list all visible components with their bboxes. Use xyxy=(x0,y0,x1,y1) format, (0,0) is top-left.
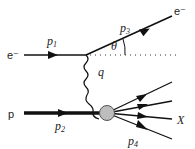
hadron-arrow xyxy=(136,94,147,102)
hadron-arrow xyxy=(137,112,148,119)
hadron-arrow xyxy=(136,120,148,130)
photon-wavy-line xyxy=(84,55,99,119)
outgoing-electron-arrow xyxy=(139,29,151,37)
p2-label: p2 xyxy=(54,119,65,134)
p1-label: p1 xyxy=(46,34,57,49)
hadron-arrow xyxy=(137,104,148,110)
p4-label: p4 xyxy=(127,134,138,149)
photon-label: q xyxy=(98,65,104,79)
proton-arrow xyxy=(58,109,68,117)
incoming-electron-label: e⁻ xyxy=(7,49,19,61)
angle-arc xyxy=(123,39,125,55)
hadrons-label: X xyxy=(176,113,185,127)
interaction-blob xyxy=(100,106,115,121)
proton-label: p xyxy=(8,108,14,120)
angle-label: θ xyxy=(111,39,117,53)
feynman-diagram: e⁻ p1 e⁻ p3 θ q p p2 X p4 xyxy=(0,0,195,149)
outgoing-electron-label: e⁻ xyxy=(174,5,186,17)
incoming-electron-arrow xyxy=(48,51,58,59)
p3-label: p3 xyxy=(119,21,130,36)
